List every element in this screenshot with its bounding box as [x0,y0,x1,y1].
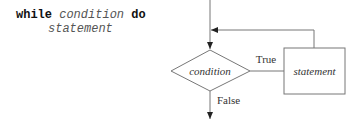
statement-label: statement [293,65,336,77]
loop-back-arrow [211,30,314,48]
decision-label: condition [189,65,231,77]
true-label: True [256,53,276,65]
false-label: False [217,94,240,106]
flowchart: condition True statement False [0,0,362,126]
